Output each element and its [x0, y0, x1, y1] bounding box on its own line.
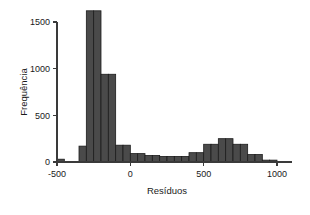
histogram-bar [196, 153, 203, 162]
x-tick-label: 500 [196, 169, 211, 179]
y-tick-label: 500 [35, 111, 50, 121]
histogram-bar [101, 74, 108, 162]
y-tick-label: 1500 [30, 17, 50, 27]
y-axis-title: Frequência [18, 68, 29, 116]
y-tick-label: 1000 [30, 64, 50, 74]
histogram-figure: -50005001000050010001500ResíduosFrequênc… [0, 0, 310, 215]
histogram-bar [233, 144, 240, 162]
histogram-bar [94, 11, 101, 162]
histogram-bar [108, 74, 115, 162]
histogram-bar [174, 156, 181, 162]
histogram-bar [211, 144, 218, 162]
histogram-bar [160, 156, 167, 162]
histogram-bar [79, 146, 86, 162]
histogram-bar [218, 139, 225, 162]
histogram-bar [116, 145, 123, 162]
histogram-bar [226, 139, 233, 162]
x-tick-label: 0 [128, 169, 133, 179]
histogram-bar [123, 145, 130, 162]
x-axis-title: Resíduos [147, 185, 187, 196]
y-tick-label: 0 [45, 157, 50, 167]
histogram-bar [189, 153, 196, 162]
histogram-bar [130, 154, 137, 162]
histogram-bar [248, 155, 255, 162]
histogram-bar [167, 156, 174, 162]
histogram-bar [145, 155, 152, 162]
histogram-bar [204, 144, 211, 162]
histogram-bar [182, 156, 189, 162]
histogram-bar [152, 155, 159, 162]
histogram-bar [86, 11, 93, 162]
histogram-plot: -50005001000050010001500ResíduosFrequênc… [0, 0, 310, 215]
x-tick-label: -500 [48, 169, 66, 179]
histogram-bar [240, 144, 247, 162]
axis-labels-group: -50005001000050010001500ResíduosFrequênc… [18, 17, 287, 196]
x-tick-label: 1000 [267, 169, 287, 179]
histogram-bar [255, 155, 262, 162]
bars-group [57, 11, 277, 162]
histogram-bar [138, 154, 145, 162]
